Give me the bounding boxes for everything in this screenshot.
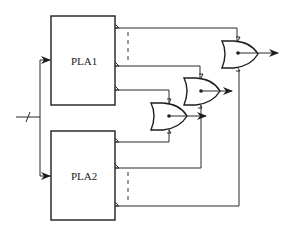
pla1-label: PLA1 [71, 55, 97, 67]
or-gate-2 [184, 74, 232, 108]
pla2-label: PLA2 [71, 170, 97, 182]
or-gate-3 [222, 37, 278, 71]
pla1-block: PLA1 [51, 16, 128, 105]
pla-circuit-diagram: PLA1 PLA2 [0, 0, 293, 229]
pla2-block: PLA2 [51, 131, 128, 220]
input-bus [16, 60, 50, 176]
